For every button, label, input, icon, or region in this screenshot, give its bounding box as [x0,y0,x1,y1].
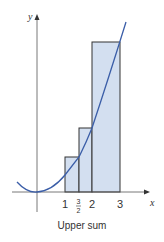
y-axis-label: y [27,11,33,22]
riemann-sum-diagram: y x 1 3 2 2 3 [0,0,164,220]
tick-label-2: 2 [89,198,95,210]
tick-label-3-over-2-den: 2 [77,207,81,214]
rect-1-to-1.5 [65,157,79,192]
rect-1.5-to-2 [79,128,92,192]
tick-label-1: 1 [62,198,68,210]
y-axis-arrow-icon [35,14,40,20]
tick-label-3: 3 [117,198,123,210]
x-axis-label: x [149,197,155,208]
figure-caption: Upper sum [0,220,164,231]
x-axis-arrow-icon [144,190,150,195]
tick-label-3-over-2-num: 3 [77,198,81,205]
